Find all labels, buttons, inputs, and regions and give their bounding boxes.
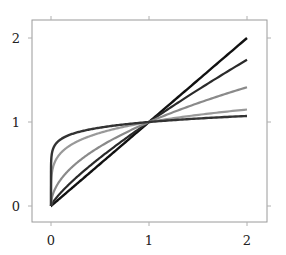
- y-tick-label: 1: [12, 115, 20, 130]
- series-line-x-pow-0_8: [51, 60, 247, 206]
- y-tick-label: 2: [12, 31, 20, 46]
- series-line-x-pow-0_5: [51, 87, 247, 206]
- x-tick-label: 0: [47, 233, 55, 248]
- x-tick-label: 1: [145, 233, 153, 248]
- axis-tick-labels: 012012: [12, 31, 251, 248]
- power-functions-chart: 012012: [0, 0, 286, 255]
- data-series: [51, 38, 247, 206]
- y-tick-label: 0: [12, 199, 20, 214]
- x-tick-label: 2: [243, 233, 251, 248]
- series-line-x-pow-0_2: [51, 110, 247, 206]
